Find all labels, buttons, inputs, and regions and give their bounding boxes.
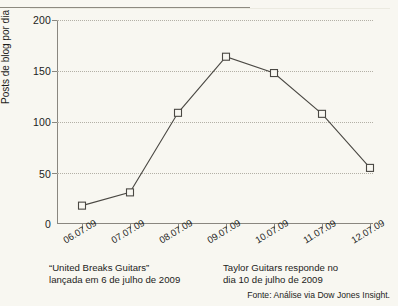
- plot-area: [57, 20, 373, 224]
- data-point-marker: [79, 202, 86, 209]
- series-markers: [79, 53, 374, 209]
- y-tick-label-100: 100: [5, 116, 51, 128]
- y-tick-label-50: 50: [5, 168, 51, 180]
- data-point-marker: [319, 110, 326, 117]
- blog-posts-line-chart: Posts de blog por dia 200 150 100 50 0: [0, 0, 398, 306]
- data-point-marker: [223, 53, 230, 60]
- chart-captions: “United Breaks Guitars” lançada em 6 de …: [0, 262, 398, 306]
- data-point-marker: [367, 164, 374, 171]
- annotation-right-line-1: Taylor Guitars responde no: [223, 262, 393, 274]
- annotation-taylor-guitars-response: Taylor Guitars responde no dia 10 de jul…: [223, 262, 393, 285]
- source-note: Fonte: Análise via Dow Jones Insight.: [247, 290, 390, 300]
- data-series-blog-posts: [57, 20, 373, 224]
- y-tick-label-200: 200: [5, 14, 51, 26]
- data-point-marker: [175, 109, 182, 116]
- y-tick-label-0: 0: [5, 218, 51, 230]
- annotation-left-line-2: lançada em 6 de julho de 2009: [49, 274, 219, 286]
- annotation-united-breaks-guitars: “United Breaks Guitars” lançada em 6 de …: [49, 262, 219, 285]
- annotation-right-line-2: dia 10 de julho de 2009: [223, 274, 393, 286]
- data-point-marker: [127, 189, 134, 196]
- y-tick-label-150: 150: [5, 65, 51, 77]
- data-point-marker: [271, 70, 278, 77]
- series-line-path: [82, 57, 370, 206]
- annotation-left-line-1: “United Breaks Guitars”: [49, 262, 219, 274]
